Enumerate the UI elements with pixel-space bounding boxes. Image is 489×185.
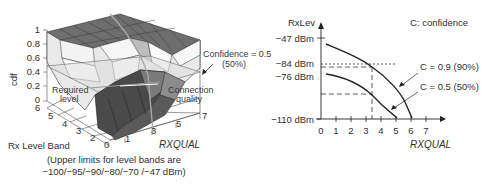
figure: 1 0.8 0.6 0.4 0.2 0 cdf 6 5 4 3 2 0 1 3 … xyxy=(0,0,489,185)
svg-text:1: 1 xyxy=(125,133,130,144)
svg-text:(50%): (50%) xyxy=(222,59,246,69)
svg-text:6: 6 xyxy=(408,125,413,136)
svg-text:0.2: 0.2 xyxy=(27,80,40,91)
svg-text:3: 3 xyxy=(151,125,156,136)
svg-text:1: 1 xyxy=(333,125,338,136)
svg-text:2: 2 xyxy=(348,125,353,136)
curve-50-label: C = 0.5 (50%) xyxy=(420,81,479,92)
curve-90-label: C = 0.9 (90%) xyxy=(420,61,479,72)
svg-text:7: 7 xyxy=(423,125,428,136)
svg-text:3: 3 xyxy=(363,125,368,136)
y-tick-76: −76 dBm xyxy=(276,71,314,82)
y-tick-47: −47 dBm xyxy=(276,33,314,44)
rxqual-axis-label-left: RXQUAL xyxy=(159,139,200,150)
y-axis-arrow-icon xyxy=(318,22,324,29)
svg-text:0: 0 xyxy=(104,139,109,150)
rxlev-chart: RxLev C: confidence −47 dBm −84 dBm −76 … xyxy=(271,17,479,150)
curve-confidence-50 xyxy=(326,74,397,118)
svg-text:4: 4 xyxy=(62,118,67,129)
arrow-50-icon xyxy=(391,105,397,110)
z-axis-ticks: 1 0.8 0.6 0.4 0.2 0 xyxy=(27,24,40,105)
svg-text:4: 4 xyxy=(378,125,383,136)
svg-text:2: 2 xyxy=(90,132,95,143)
svg-text:6: 6 xyxy=(35,102,40,113)
z-axis-label: cdf xyxy=(8,73,19,86)
level-band-note-line2: −100/−95/−90/−80/−70 /−47 dBm) xyxy=(42,166,185,177)
y-axis-label: RxLev xyxy=(288,17,315,28)
svg-text:5: 5 xyxy=(48,110,53,121)
svg-text:0: 0 xyxy=(318,125,323,136)
svg-text:0.6: 0.6 xyxy=(27,52,40,63)
x-axis-label: RXQUAL xyxy=(410,139,451,150)
y-tick-84: −84 dBm xyxy=(276,58,314,69)
surface-chart: 1 0.8 0.6 0.4 0.2 0 cdf 6 5 4 3 2 0 1 3 … xyxy=(8,14,271,177)
confidence-annotation: Confidence = 0.5 xyxy=(203,49,271,59)
arrow-90-icon xyxy=(399,82,405,87)
level-band-note-line1: (Upper limits for level bands are xyxy=(47,154,181,165)
svg-text:7: 7 xyxy=(202,110,207,121)
curve-confidence-90 xyxy=(326,44,412,118)
svg-text:1: 1 xyxy=(35,24,40,35)
svg-text:5: 5 xyxy=(176,118,181,129)
level-band-axis-label: Rx Level Band xyxy=(8,140,70,151)
y-tick-110: −110 dBm xyxy=(271,114,314,125)
svg-text:0.8: 0.8 xyxy=(27,38,40,49)
svg-text:3: 3 xyxy=(76,125,81,136)
svg-text:quality: quality xyxy=(176,94,203,104)
svg-text:0.4: 0.4 xyxy=(27,66,40,77)
legend-title: C: confidence xyxy=(410,17,468,28)
svg-text:level: level xyxy=(60,94,79,104)
svg-text:5: 5 xyxy=(393,125,398,136)
x-tick-labels: 0 1 2 3 4 5 6 7 xyxy=(318,125,428,136)
x-axis-arrow-icon xyxy=(440,116,446,122)
